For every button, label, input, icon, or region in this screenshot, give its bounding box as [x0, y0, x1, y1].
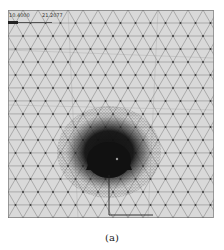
scale-bar	[8, 21, 18, 24]
mesh-plot	[8, 10, 214, 218]
scale-line	[18, 22, 52, 23]
mesh-svg	[8, 10, 214, 218]
figure-caption: (a)	[0, 232, 224, 243]
figure: 10.4000 21.2077 (a)	[0, 0, 224, 250]
dimension-label-right: 21.2077	[42, 13, 63, 18]
dimension-label-left: 10.4000	[9, 13, 30, 18]
